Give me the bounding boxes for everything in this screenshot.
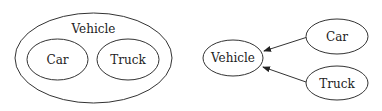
car-to-vehicle-arrow [264, 38, 306, 52]
containment-diagram: Vehicle Car Truck [15, 13, 172, 103]
truck-node-label: Truck [319, 77, 355, 91]
vehicle-container-label: Vehicle [71, 22, 116, 36]
car-node-label: Car [326, 30, 348, 44]
truck-to-vehicle-arrow [263, 67, 306, 82]
car-inner-label: Car [46, 53, 68, 67]
diagram-canvas: Vehicle Car Truck Vehicle Car Truck [0, 0, 382, 111]
vehicle-node-label: Vehicle [210, 51, 255, 65]
truck-inner-label: Truck [110, 53, 146, 67]
inheritance-diagram: Vehicle Car Truck [203, 19, 368, 100]
